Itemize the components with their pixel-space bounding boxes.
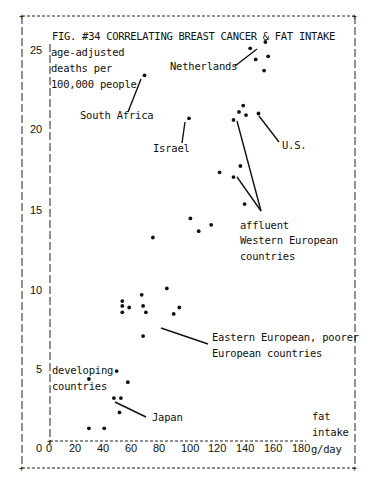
data-point (209, 223, 213, 227)
x-tick-80: 80 (153, 442, 165, 454)
y-tick-25: 25 (30, 44, 42, 56)
annotation-netherlands: Netherlands (170, 60, 237, 72)
data-point (232, 175, 236, 179)
x-tick-140: 140 (236, 442, 254, 454)
annotation-affluent-line1: affluent (240, 219, 289, 231)
data-point (120, 310, 124, 314)
data-point (187, 116, 191, 120)
x-tick-180: 180 (292, 442, 310, 454)
data-point (87, 426, 91, 430)
data-point (241, 104, 245, 108)
y-tick-20: 20 (30, 123, 42, 135)
data-point (243, 202, 247, 206)
data-point (144, 310, 148, 314)
data-point (141, 304, 145, 308)
data-point (165, 287, 169, 291)
annotation-affluent-line3: countries (240, 250, 295, 262)
x-tick-20: 20 (69, 442, 81, 454)
data-point (262, 69, 266, 73)
data-point (172, 312, 176, 316)
data-point (257, 112, 261, 116)
data-point (232, 118, 236, 122)
x-tick-60: 60 (125, 442, 137, 454)
data-point (244, 113, 248, 117)
data-point (189, 217, 193, 221)
svg-text:+: + (352, 12, 357, 21)
data-point (218, 170, 222, 174)
annotation-us: U.S. (282, 139, 307, 151)
data-point (120, 299, 124, 303)
annotation-affluent-line2: Western European (240, 234, 338, 246)
annotation-eastern-line1: Eastern European, poorer (212, 331, 359, 343)
data-point (102, 426, 106, 430)
svg-text:+: + (19, 464, 24, 473)
y-tick-5: 5 (36, 363, 42, 375)
svg-text:+: + (19, 12, 24, 21)
data-point (239, 164, 243, 168)
data-point (118, 411, 122, 415)
y-axis-label-line2: deaths per (51, 62, 112, 74)
data-point (266, 54, 270, 58)
data-point (119, 396, 123, 400)
data-point (248, 46, 252, 50)
annotation-japan: Japan (152, 411, 183, 423)
y-tick-10: 10 (30, 284, 42, 296)
annotation-israel: Israel (153, 142, 190, 154)
y-axis-label-line3: 100,000 people (51, 78, 137, 90)
data-point (140, 293, 144, 297)
x-tick-120: 120 (208, 442, 226, 454)
data-point (237, 110, 241, 114)
x-tick-0: 0 (46, 442, 52, 454)
annotation-developing-line1: developing (52, 364, 113, 376)
annotation-developing-line2: countries (52, 380, 107, 392)
chart-title: FIG. #34 CORRELATING BREAST CANCER & FAT… (52, 30, 335, 42)
data-point (177, 306, 181, 310)
annotation-south-africa: South Africa (80, 109, 153, 121)
x-axis-label-line3: g/day (311, 443, 342, 455)
data-point (126, 380, 130, 384)
data-point (254, 58, 258, 62)
y-tick-15: 15 (30, 204, 42, 216)
x-tick-100: 100 (181, 442, 199, 454)
data-point (120, 304, 124, 308)
data-point (112, 396, 116, 400)
y-axis-label-line1: age-adjusted (51, 46, 124, 58)
data-point (141, 334, 145, 338)
annotation-eastern-line2: European countries (212, 347, 322, 359)
x-tick-40: 40 (97, 442, 109, 454)
data-point (127, 306, 131, 310)
x-axis-label-line1: fat (312, 410, 330, 422)
svg-text:+: + (352, 464, 357, 473)
data-point (143, 73, 147, 77)
data-point (151, 236, 155, 240)
x-tick-160: 160 (264, 442, 282, 454)
y-tick-0: 0 (36, 442, 42, 454)
data-point (115, 369, 119, 373)
x-axis-label-line2: intake (312, 426, 349, 438)
data-point (197, 229, 201, 233)
